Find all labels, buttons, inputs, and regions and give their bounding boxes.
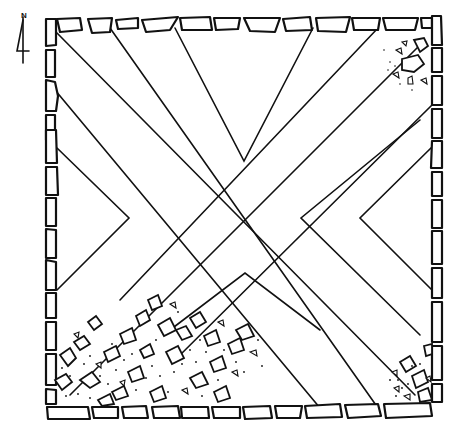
top-wall (57, 17, 432, 33)
southeast-corner-rubble (389, 344, 432, 402)
left-wall (46, 19, 58, 404)
north-arrow-icon (17, 17, 29, 63)
north-label: N (21, 11, 27, 20)
site-plan-drawing (0, 0, 463, 433)
northeast-corner-rubble (383, 38, 428, 91)
southwest-rubble-spread (55, 295, 263, 406)
